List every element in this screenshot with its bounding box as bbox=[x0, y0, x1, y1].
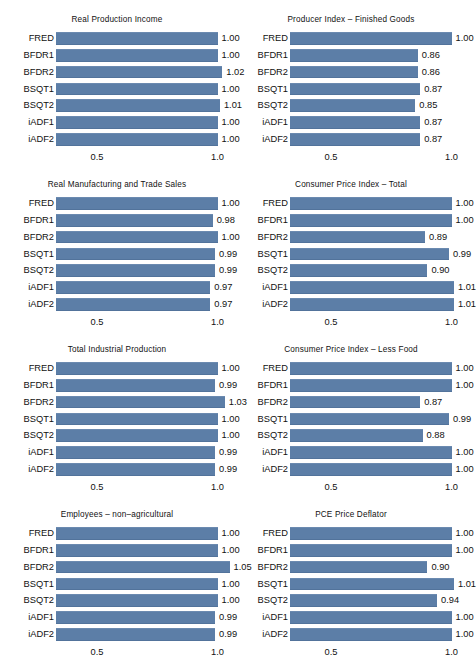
bar bbox=[290, 298, 454, 311]
category-label: BSQT1 bbox=[234, 411, 288, 428]
x-axis: 0.51.0 bbox=[234, 315, 468, 331]
bar-track: 0.86 bbox=[290, 64, 468, 81]
bar bbox=[290, 264, 427, 277]
bar-value-label: 0.90 bbox=[427, 262, 449, 279]
bar-row: BSQT10.99 bbox=[0, 246, 234, 263]
bar-row: BFDR11.00 bbox=[0, 542, 234, 559]
bar-track: 0.87 bbox=[290, 394, 468, 411]
bar-value-label: 0.99 bbox=[449, 246, 471, 263]
bar-track: 0.86 bbox=[290, 47, 468, 64]
category-label: BFDR1 bbox=[234, 542, 288, 559]
chart-panel: Real Manufacturing and Trade SalesFRED1.… bbox=[0, 165, 234, 330]
bar-value-label: 0.86 bbox=[418, 47, 440, 64]
x-axis-tick-label: 0.5 bbox=[325, 480, 338, 494]
x-axis-tick-label: 1.0 bbox=[211, 480, 224, 494]
bar-track: 0.87 bbox=[290, 81, 468, 98]
bar bbox=[56, 611, 215, 624]
plot-area: FRED1.00BFDR11.00BFDR20.89BSQT10.99BSQT2… bbox=[234, 195, 468, 313]
bar-track: 0.90 bbox=[290, 262, 468, 279]
bar-row: BFDR11.00 bbox=[234, 542, 468, 559]
bar-value-label: 1.00 bbox=[452, 542, 474, 559]
bar-value-label: 0.87 bbox=[420, 81, 442, 98]
plot-area: FRED1.00BFDR11.00BFDR21.02BSQT11.00BSQT2… bbox=[0, 30, 234, 148]
category-label: BSQT2 bbox=[0, 97, 54, 114]
bar-track: 0.88 bbox=[290, 427, 468, 444]
bar bbox=[56, 32, 218, 45]
category-label: iADF1 bbox=[0, 114, 54, 131]
category-label: BFDR1 bbox=[234, 212, 288, 229]
chart-panel: Total Industrial ProductionFRED1.00BFDR1… bbox=[0, 330, 234, 495]
bar-track: 1.00 bbox=[56, 592, 234, 609]
bar-row: iADF20.87 bbox=[234, 131, 468, 148]
bar bbox=[290, 611, 452, 624]
bar-track: 1.00 bbox=[56, 411, 234, 428]
bar-row: BFDR21.02 bbox=[0, 64, 234, 81]
category-label: BSQT2 bbox=[0, 592, 54, 609]
category-label: BSQT1 bbox=[0, 246, 54, 263]
bar-value-label: 1.00 bbox=[452, 360, 474, 377]
bar-value-label: 0.97 bbox=[210, 279, 232, 296]
bar-row: iADF11.00 bbox=[0, 114, 234, 131]
category-label: BSQT2 bbox=[0, 262, 54, 279]
bar bbox=[290, 133, 420, 146]
bar-row: BFDR10.99 bbox=[0, 377, 234, 394]
x-axis: 0.51.0 bbox=[0, 480, 234, 496]
bar bbox=[290, 197, 452, 210]
bar bbox=[56, 298, 210, 311]
bar-value-label: 0.90 bbox=[427, 559, 449, 576]
bar-row: iADF10.99 bbox=[0, 609, 234, 626]
panel-title: Consumer Price Index – Less Food bbox=[234, 330, 468, 356]
x-axis-tick-label: 0.5 bbox=[91, 150, 104, 164]
category-label: BFDR1 bbox=[234, 47, 288, 64]
panel-title: Producer Index – Finished Goods bbox=[234, 0, 468, 26]
category-label: FRED bbox=[234, 360, 288, 377]
category-label: BFDR2 bbox=[0, 229, 54, 246]
chart-panel: Consumer Price Index – TotalFRED1.00BFDR… bbox=[234, 165, 468, 330]
bar-track: 0.99 bbox=[56, 377, 234, 394]
bar bbox=[290, 396, 420, 409]
bar bbox=[56, 429, 218, 442]
category-label: BSQT2 bbox=[234, 592, 288, 609]
x-axis-tick-label: 0.5 bbox=[325, 645, 338, 659]
bar bbox=[290, 362, 452, 375]
category-label: BFDR2 bbox=[234, 559, 288, 576]
category-label: FRED bbox=[0, 195, 54, 212]
bar bbox=[290, 66, 418, 79]
bar-row: FRED1.00 bbox=[234, 195, 468, 212]
bar bbox=[56, 594, 218, 607]
x-axis-tick-label: 0.5 bbox=[91, 480, 104, 494]
plot-area: FRED1.00BFDR11.00BFDR20.87BSQT10.99BSQT2… bbox=[234, 360, 468, 478]
bar-track: 1.03 bbox=[56, 394, 234, 411]
bar-row: iADF21.01 bbox=[234, 296, 468, 313]
panel-title: Consumer Price Index – Total bbox=[234, 165, 468, 191]
chart-panel: Real Production IncomeFRED1.00BFDR11.00B… bbox=[0, 0, 234, 165]
bar-row: BFDR20.86 bbox=[234, 64, 468, 81]
bar-value-label: 1.01 bbox=[454, 296, 476, 313]
plot-area: FRED1.00BFDR11.00BFDR20.90BSQT11.01BSQT2… bbox=[234, 525, 468, 643]
category-label: iADF1 bbox=[234, 444, 288, 461]
bar-track: 1.00 bbox=[56, 427, 234, 444]
bar-row: FRED1.00 bbox=[0, 360, 234, 377]
bar bbox=[56, 413, 218, 426]
bar bbox=[290, 32, 452, 45]
category-label: iADF1 bbox=[0, 609, 54, 626]
category-label: FRED bbox=[234, 195, 288, 212]
category-label: iADF1 bbox=[234, 279, 288, 296]
bar bbox=[56, 66, 222, 79]
x-axis-tick-label: 0.5 bbox=[91, 315, 104, 329]
bar-track: 0.99 bbox=[56, 461, 234, 478]
bar-row: FRED1.00 bbox=[0, 525, 234, 542]
bar-track: 1.00 bbox=[290, 195, 468, 212]
category-label: iADF1 bbox=[234, 114, 288, 131]
bar-row: BSQT21.01 bbox=[0, 97, 234, 114]
bar-track: 1.00 bbox=[290, 626, 468, 643]
bar-track: 1.00 bbox=[290, 609, 468, 626]
category-label: iADF2 bbox=[234, 131, 288, 148]
bar-row: iADF20.99 bbox=[0, 626, 234, 643]
bar-track: 1.05 bbox=[56, 559, 234, 576]
category-label: iADF2 bbox=[234, 626, 288, 643]
bar bbox=[56, 281, 210, 294]
bar-row: iADF10.97 bbox=[0, 279, 234, 296]
category-label: iADF2 bbox=[0, 626, 54, 643]
